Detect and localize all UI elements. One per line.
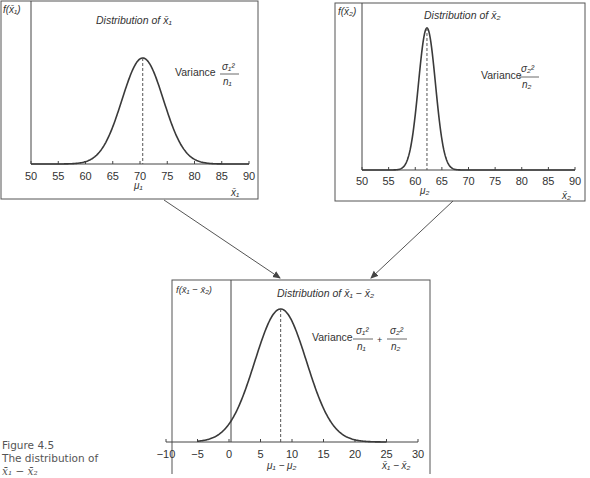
y-axis-label: f(x̄₂) <box>338 6 356 17</box>
mean-label: μ₁ − μ₂ <box>266 460 297 471</box>
variance-label: Variance <box>175 66 216 78</box>
x-tick-label: 55 <box>383 175 395 187</box>
panel-x2-distribution: 505560657075808590 f(x̄₂) Distribution o… <box>335 3 585 201</box>
x-tick-label: 75 <box>161 170 173 182</box>
panel-x1-distribution: 505560657075808590 f(x̄₁) Distribution o… <box>1 1 258 199</box>
panel-title: Distribution of x̄₁ − x̄₂ <box>277 287 374 299</box>
panel-frame <box>172 280 430 474</box>
x-tick-label: 10 <box>286 448 298 460</box>
panel-difference-distribution: −10−5051015202530 f(x̄₁ − x̄₂) Distribut… <box>157 280 430 474</box>
x-tick-label: 80 <box>188 170 200 182</box>
x-tick-label: 75 <box>489 175 501 187</box>
x-tick-label: −10 <box>157 448 176 460</box>
variance-numerator: σ₁² <box>356 325 369 336</box>
x-tick-label: 0 <box>226 448 232 460</box>
caption-text: The distribution of <box>2 452 98 465</box>
x-tick-label: 70 <box>462 175 474 187</box>
x-tick-label: 60 <box>79 170 91 182</box>
variance-numerator-2: σ₂² <box>390 325 404 336</box>
x-tick-label: 20 <box>349 448 361 460</box>
plus-sign: + <box>377 335 382 345</box>
variance-label: Variance <box>481 69 522 81</box>
panel-title: Distribution of x̄₁ <box>96 14 172 26</box>
x-axis-label: x̄₁ − x̄₂ <box>381 460 411 471</box>
variance-denominator-2: n₂ <box>391 341 401 352</box>
x-tick-label: 85 <box>216 170 228 182</box>
x-tick-label: 65 <box>436 175 448 187</box>
x-tick-label: 15 <box>317 448 329 460</box>
x-tick-label: 50 <box>25 170 37 182</box>
variance-label: Variance <box>312 331 353 343</box>
arrow-panel1-to-panel3 <box>164 200 280 278</box>
x-tick-label: 30 <box>412 448 424 460</box>
mean-label: μ₂ <box>419 185 429 196</box>
x-tick-label: 90 <box>569 175 581 187</box>
caption-expression: x̄₁ − x̄₂ <box>2 465 98 478</box>
x-tick-label: 55 <box>52 170 64 182</box>
x-tick-label: 85 <box>542 175 554 187</box>
variance-denominator: n₁ <box>357 341 366 352</box>
x-tick-label: 65 <box>107 170 119 182</box>
variance-numerator: σ₁² <box>222 61 235 72</box>
y-axis-label: f(x̄₁ − x̄₂) <box>176 284 212 295</box>
x-tick-label: 50 <box>356 175 368 187</box>
x-tick-label: 80 <box>516 175 528 187</box>
x-axis-label: x̄₂ <box>561 190 571 201</box>
x-tick-label: 25 <box>380 448 392 460</box>
density-curve <box>31 58 249 164</box>
panel-frame <box>335 3 585 201</box>
variance-denominator: n₂ <box>522 79 532 90</box>
variance-denominator: n₁ <box>223 76 232 87</box>
x-tick-label: 5 <box>257 448 263 460</box>
mean-label: μ₁ <box>133 180 143 191</box>
x-tick-label: 90 <box>243 170 255 182</box>
y-axis-label: f(x̄₁) <box>3 4 21 15</box>
density-curve <box>362 28 575 170</box>
arrow-panel2-to-panel3 <box>371 201 453 278</box>
figure-caption: Figure 4.5 The distribution of x̄₁ − x̄₂ <box>2 439 98 478</box>
x-tick-label: −5 <box>191 448 204 460</box>
x-axis-label: x̄₁ <box>230 187 239 198</box>
panel-title: Distribution of x̄₂ <box>424 9 500 21</box>
figure-label: Figure 4.5 <box>2 439 98 452</box>
variance-numerator: σ₂² <box>521 63 535 74</box>
